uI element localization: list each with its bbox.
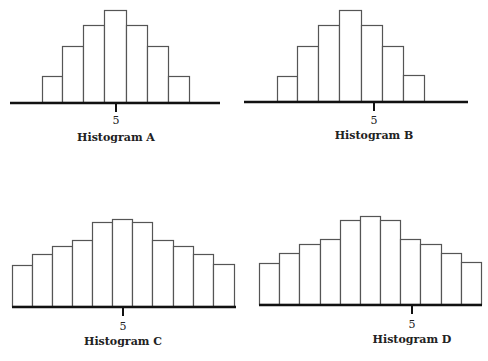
histogram-c-tick-label: 5 xyxy=(120,320,127,333)
histogram-b-title: Histogram B xyxy=(335,129,414,142)
histogram-bar xyxy=(194,255,214,307)
histogram-bar xyxy=(214,265,235,307)
histogram-bar xyxy=(341,221,361,305)
histogram-bar xyxy=(362,26,383,102)
histogram-b-tick-label: 5 xyxy=(371,114,378,127)
histogram-a-title: Histogram A xyxy=(77,131,155,144)
histogram-bar xyxy=(53,247,73,307)
histogram-bar xyxy=(33,255,53,307)
histogram-bar xyxy=(381,221,401,305)
histogram-b xyxy=(244,11,468,112)
histogram-c-title: Histogram C xyxy=(84,335,162,348)
histogram-bar xyxy=(63,47,84,103)
histogram-bar xyxy=(361,217,381,305)
histogram-bar xyxy=(174,247,194,307)
histogram-bar xyxy=(105,11,127,103)
histogram-bar xyxy=(319,26,340,102)
histogram-figure: 5 Histogram A 5 Histogram B 5 Histogram … xyxy=(0,0,488,361)
histogram-d-title: Histogram D xyxy=(373,333,452,346)
histogram-a-tick-label: 5 xyxy=(113,114,120,127)
histogram-d-tick-label: 5 xyxy=(409,318,416,331)
histogram-bar xyxy=(401,240,421,305)
histogram-c xyxy=(12,220,236,317)
histogram-bar xyxy=(169,77,190,103)
histogram-bar xyxy=(278,77,298,102)
histogram-bar xyxy=(280,254,300,305)
histogram-bar xyxy=(300,245,321,305)
histogram-bar xyxy=(13,266,33,307)
histogram-bar xyxy=(148,47,169,103)
histogram-bar xyxy=(133,223,153,307)
histogram-bar xyxy=(153,241,174,307)
histogram-bar xyxy=(298,47,319,102)
histogram-d xyxy=(259,217,482,315)
histograms-svg xyxy=(0,0,488,361)
histogram-bar xyxy=(404,76,425,102)
histogram-bar xyxy=(321,240,341,305)
histogram-a xyxy=(10,11,220,113)
histogram-bar xyxy=(442,254,462,305)
histogram-bar xyxy=(260,264,280,305)
histogram-bar xyxy=(340,11,362,102)
histogram-bar xyxy=(421,245,442,305)
histogram-bar xyxy=(462,263,482,305)
histogram-bar xyxy=(43,77,63,103)
histogram-bar xyxy=(84,26,105,103)
histogram-bar xyxy=(73,241,93,307)
histogram-bar xyxy=(383,47,404,102)
histogram-bar xyxy=(93,223,113,307)
histogram-bar xyxy=(127,26,148,103)
histogram-bar xyxy=(113,220,133,307)
